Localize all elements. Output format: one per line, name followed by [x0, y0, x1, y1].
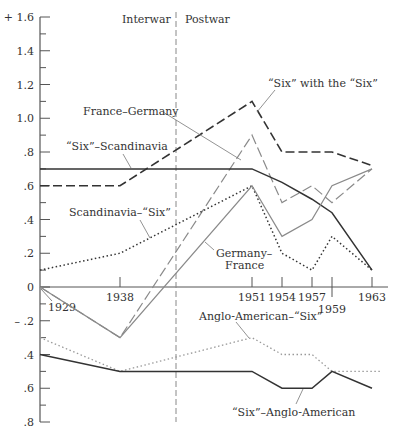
y-tick-label: + 1.6 — [4, 11, 34, 24]
postwar-label: Postwar — [185, 13, 231, 26]
series-line-3 — [40, 186, 372, 270]
y-tick-label: 1.0 — [17, 112, 35, 125]
y-tick-label: .4 — [24, 349, 35, 362]
series-line-2 — [40, 169, 372, 270]
x-tick-label: 1938 — [106, 291, 134, 304]
y-tick-label: .4 — [24, 214, 35, 227]
y-tick-label: .6 — [24, 382, 35, 395]
label-anglo-six: Anglo-American–“Six” — [198, 310, 322, 323]
y-tick-label: – .2 — [15, 315, 35, 328]
label-leader — [163, 112, 241, 160]
axes: + 1.61.41.21.0.8.6.4.20– .2.4.6.81929193… — [4, 11, 388, 429]
series-line-5 — [40, 338, 380, 372]
label-leader — [257, 90, 275, 112]
label-six-with-six: “Six” with the “Six” — [268, 77, 378, 90]
y-tick-label: 1.4 — [17, 45, 35, 58]
line-chart: + 1.61.41.21.0.8.6.4.20– .2.4.6.81929193… — [0, 0, 399, 438]
label-leader — [296, 389, 303, 404]
y-tick-label: .2 — [24, 247, 35, 260]
y-tick-label: .8 — [24, 146, 35, 159]
label-leader — [140, 220, 150, 238]
y-tick-label: 1.2 — [17, 79, 35, 92]
label-six-anglo: “Six”–Anglo-American — [232, 406, 355, 419]
label-scandinavia-six: Scandinavia–“Six” — [69, 206, 171, 219]
x-tick-label: 1951 — [238, 291, 266, 304]
label-leader — [205, 242, 214, 250]
y-tick-label: 0 — [27, 281, 34, 294]
y-tick-label: .6 — [24, 180, 35, 193]
label-leader — [236, 322, 249, 338]
label-leader-lines — [123, 90, 303, 404]
label-leader — [123, 154, 131, 168]
label-france-germany: France–Germany — [83, 105, 179, 118]
series-line-6 — [40, 355, 372, 389]
label-six-scandinavia: “Six”–Scandinavia — [66, 140, 168, 153]
label-germany-france-line2: France — [225, 259, 264, 272]
interwar-label: Interwar — [122, 13, 172, 26]
y-tick-label: .8 — [24, 416, 35, 429]
x-tick-label: 1954 — [268, 291, 296, 304]
x-tick-label: 1963 — [358, 291, 386, 304]
